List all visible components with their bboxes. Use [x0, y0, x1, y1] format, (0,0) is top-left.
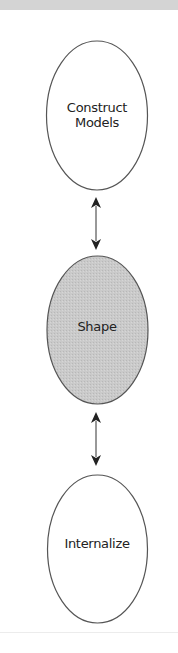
node-label-line: Models: [75, 115, 120, 130]
node-label-line: Internalize: [64, 536, 130, 551]
flow-diagram: Construct Models Shape Internalize: [0, 0, 178, 653]
bidirectional-arrow-icon: [91, 197, 101, 250]
bidirectional-arrow-icon: [91, 412, 101, 466]
node-label-line: Construct: [67, 100, 127, 115]
node-shape: Shape: [47, 256, 148, 404]
node-label-line: Shape: [77, 319, 117, 334]
node-internalize: Internalize: [48, 475, 148, 623]
bottom-divider: [0, 632, 178, 633]
node-construct-models: Construct Models: [47, 41, 148, 190]
